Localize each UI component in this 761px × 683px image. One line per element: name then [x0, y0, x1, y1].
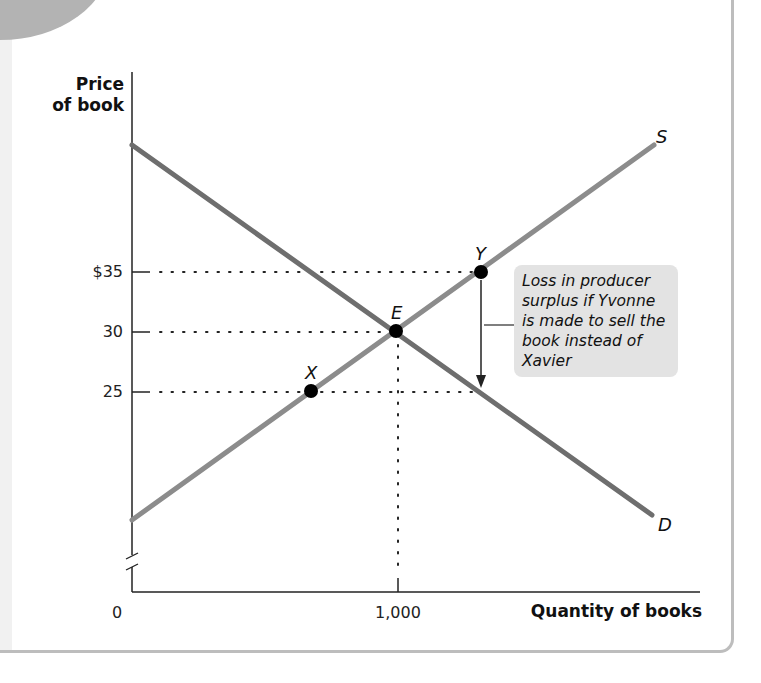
y-tick-label-30: 30 — [73, 322, 123, 341]
arrowhead-down-icon — [476, 375, 486, 388]
y-tick-label-35: $35 — [73, 262, 123, 281]
y-axis-label-line1: Price — [40, 74, 124, 95]
point-e-label: E — [391, 302, 402, 323]
point-y-label: Y — [475, 243, 486, 264]
point-x — [304, 384, 318, 398]
point-x-label: X — [305, 362, 317, 383]
point-e — [389, 324, 403, 338]
y-axis-label: Price of book — [40, 74, 124, 116]
y-tick-label-25: 25 — [73, 382, 123, 401]
annotation-box: Loss in producer surplus if Yvonne is ma… — [514, 265, 678, 377]
supply-curve-label: S — [656, 126, 667, 147]
demand-curve-label: D — [658, 514, 672, 535]
x-tick-label-0: 0 — [87, 603, 147, 622]
x-tick-label-1000: 1,000 — [368, 603, 428, 622]
x-axis-label: Quantity of books — [490, 601, 702, 621]
y-axis-label-line2: of book — [40, 95, 124, 116]
point-y — [474, 265, 488, 279]
